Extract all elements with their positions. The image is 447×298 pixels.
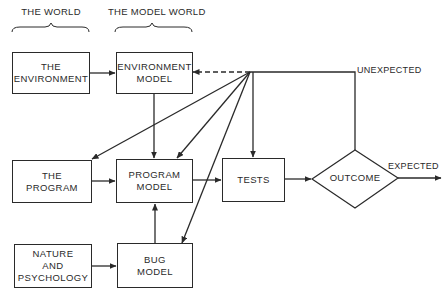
node-nature-and-psychology: NATURE AND PSYCHOLOGY — [14, 244, 92, 288]
brace-the-world — [12, 23, 89, 32]
node-environment-model: ENVIRONMENT MODEL — [116, 52, 193, 94]
node-the-program: THE PROGRAM — [12, 160, 92, 203]
header-the-world: THE WORLD — [20, 6, 82, 18]
node-program-model: PROGRAM MODEL — [116, 159, 193, 203]
brace-model-world — [115, 23, 192, 32]
label-expected: EXPECTED — [388, 160, 439, 172]
label-unexpected: UNEXPECTED — [357, 64, 422, 76]
header-the-model-world: THE MODEL WORLD — [108, 6, 204, 18]
edge-outcome-unexpected — [250, 72, 355, 150]
node-bug-model: BUG MODEL — [117, 243, 193, 288]
node-outcome-label: OUTCOME — [320, 172, 390, 184]
node-the-environment: THE ENVIRONMENT — [12, 52, 90, 94]
node-tests: TESTS — [222, 158, 285, 202]
